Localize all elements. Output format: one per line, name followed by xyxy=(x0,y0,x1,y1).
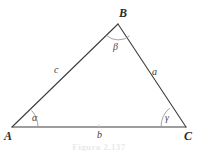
vertex-label-b: B xyxy=(119,7,127,19)
vertex-label-a: A xyxy=(4,130,12,142)
angle-label-gamma: γ xyxy=(165,113,169,123)
triangle-figure: A B C c a b α β γ Figura 2.137 xyxy=(0,0,198,154)
vertex-label-c: C xyxy=(184,130,192,142)
side-label-a: a xyxy=(152,67,157,77)
side-label-b: b xyxy=(97,130,102,140)
figure-caption: Figura 2.137 xyxy=(0,143,198,151)
side-c-line xyxy=(12,24,118,127)
angle-label-alpha: α xyxy=(32,113,37,123)
angle-label-beta: β xyxy=(113,42,118,52)
side-label-c: c xyxy=(54,65,58,75)
